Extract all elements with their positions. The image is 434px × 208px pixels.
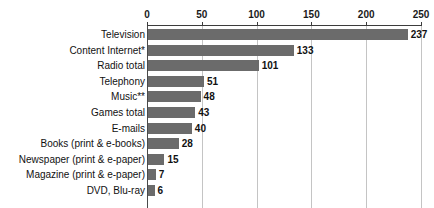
bar <box>148 169 156 180</box>
bar-category-label: Music** <box>111 90 145 104</box>
bar-category-label: E-mails <box>112 122 145 136</box>
bar <box>148 107 195 118</box>
bar <box>148 29 408 40</box>
axis-tick-label: 0 <box>144 9 150 20</box>
bar <box>148 123 192 134</box>
chart-plot-area: Television237Content Internet*133Radio t… <box>0 26 434 208</box>
bar <box>148 154 164 165</box>
bar-category-label: Television <box>101 28 145 42</box>
bar-category-label: Games total <box>91 106 145 120</box>
axis-tick-mark <box>202 22 203 25</box>
bar <box>148 76 204 87</box>
bar-value-label: 40 <box>195 122 206 136</box>
chart-x-axis: 050100150200250 <box>0 0 434 26</box>
bar-row: Books (print & e-books)28 <box>0 136 434 152</box>
bar-category-label: Newspaper (print & e-paper) <box>19 153 145 167</box>
bar-row: Games total43 <box>0 105 434 121</box>
bar <box>148 60 259 71</box>
bar-category-label: Telephony <box>99 75 145 89</box>
bar-row: DVD, Blu-ray6 <box>0 183 434 199</box>
bar-value-label: 101 <box>262 59 279 73</box>
bar-chart: 050100150200250 Television237Content Int… <box>0 0 434 208</box>
axis-tick-mark <box>311 22 312 25</box>
bar-row: Radio total101 <box>0 58 434 74</box>
bar-value-label: 15 <box>167 153 178 167</box>
bar-value-label: 237 <box>411 28 428 42</box>
axis-tick-label: 250 <box>413 9 430 20</box>
axis-tick-label: 150 <box>303 9 320 20</box>
bar-value-label: 7 <box>159 168 165 182</box>
bar-row: Content Internet*133 <box>0 43 434 59</box>
bar <box>148 45 294 56</box>
bar-row: Television237 <box>0 27 434 43</box>
bar-row: Newspaper (print & e-paper)15 <box>0 152 434 168</box>
bar-category-label: Radio total <box>97 59 145 73</box>
bar-row: Telephony51 <box>0 74 434 90</box>
axis-tick-label: 50 <box>196 9 207 20</box>
bar-row: Music**48 <box>0 89 434 105</box>
bar-category-label: Content Internet* <box>69 44 145 58</box>
bar-row: Magazine (print & e-paper)7 <box>0 167 434 183</box>
bar-value-label: 51 <box>207 75 218 89</box>
axis-tick-mark <box>366 22 367 25</box>
bar-value-label: 28 <box>182 137 193 151</box>
bar-category-label: Books (print & e-books) <box>41 137 146 151</box>
bar-row: E-mails40 <box>0 121 434 137</box>
bar-value-label: 43 <box>198 106 209 120</box>
bar-value-label: 6 <box>158 184 164 198</box>
axis-tick-mark <box>147 22 148 25</box>
axis-tick-mark <box>421 22 422 25</box>
axis-tick-label: 100 <box>248 9 265 20</box>
bar-category-label: Magazine (print & e-paper) <box>26 168 145 182</box>
bar <box>148 185 155 196</box>
bar-category-label: DVD, Blu-ray <box>87 184 145 198</box>
bar-value-label: 133 <box>297 44 314 58</box>
axis-tick-label: 200 <box>358 9 375 20</box>
bar-value-label: 48 <box>204 90 215 104</box>
bar <box>148 138 179 149</box>
bar <box>148 91 201 102</box>
axis-tick-mark <box>257 22 258 25</box>
